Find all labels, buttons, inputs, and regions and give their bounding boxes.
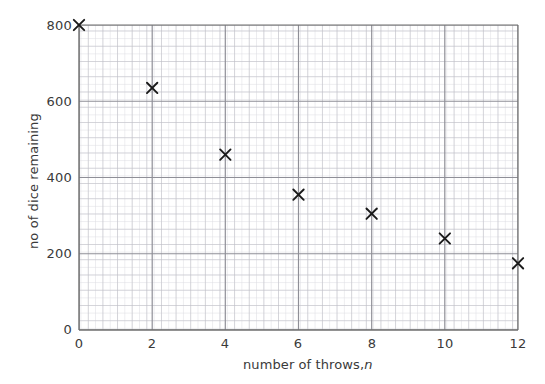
x-tick-label-6: 6 bbox=[278, 336, 318, 351]
x-tick-label-2: 2 bbox=[132, 336, 172, 351]
scatter-chart: 800 600 400 200 0 0 2 4 6 8 10 12 number… bbox=[0, 0, 545, 384]
x-tick-label-12: 12 bbox=[498, 336, 538, 351]
y-tick-label-800: 800 bbox=[34, 18, 72, 33]
x-axis-title: number of throws,n bbox=[243, 357, 372, 372]
plot-canvas bbox=[0, 0, 545, 384]
y-tick-label-600: 600 bbox=[34, 94, 72, 109]
y-axis-title: no of dice remaining bbox=[26, 113, 41, 249]
x-tick-label-8: 8 bbox=[352, 336, 392, 351]
x-axis-title-variable: n bbox=[364, 357, 372, 372]
y-tick-label-0: 0 bbox=[34, 322, 72, 337]
x-tick-label-0: 0 bbox=[59, 336, 99, 351]
x-tick-label-4: 4 bbox=[205, 336, 245, 351]
x-tick-label-10: 10 bbox=[425, 336, 465, 351]
x-axis-title-text: number of throws, bbox=[243, 357, 364, 372]
